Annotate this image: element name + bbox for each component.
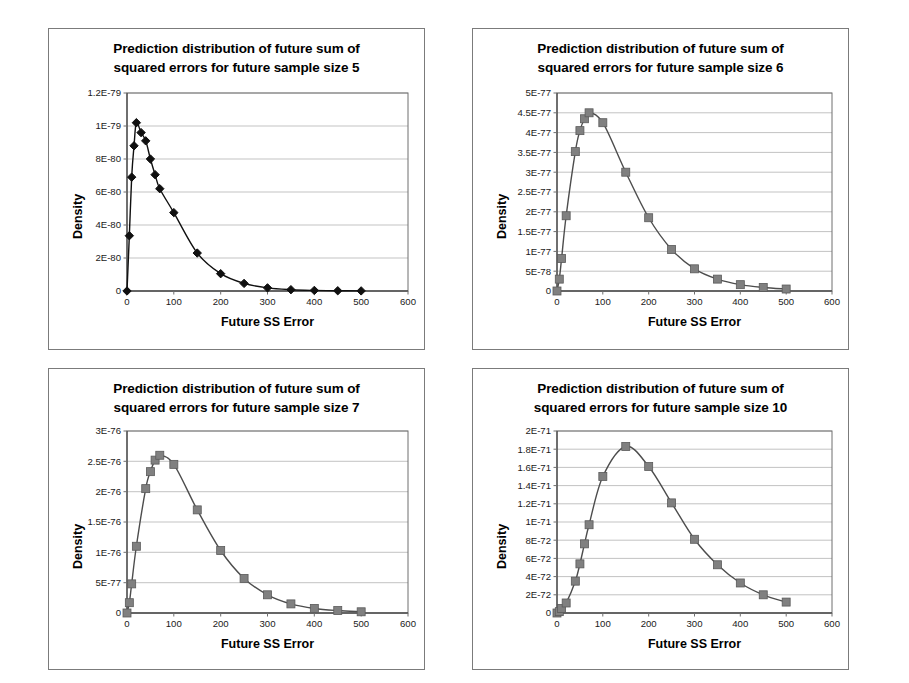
figure-page: Prediction distribution of future sum of… [0, 0, 909, 683]
x-tick-label: 600 [824, 296, 840, 307]
data-point-marker [217, 547, 225, 555]
y-tick-label: 1.5E-77 [517, 226, 551, 237]
y-tick-label: 2E-71 [525, 425, 551, 436]
x-tick-label: 600 [400, 296, 416, 307]
data-point-marker [622, 442, 630, 450]
data-point-marker [128, 580, 136, 588]
data-point-marker [599, 119, 607, 127]
x-tick-label: 600 [824, 618, 840, 629]
y-tick-label: 0 [546, 607, 551, 618]
data-point-marker [782, 598, 790, 606]
y-axis-title: Density [71, 524, 85, 569]
data-point-marker [357, 608, 365, 616]
chart-panel-size-10: Prediction distribution of future sum of… [472, 368, 849, 670]
y-tick-label: 1.8E-71 [517, 444, 551, 455]
data-point-marker [622, 168, 630, 176]
y-tick-label: 0 [116, 285, 121, 296]
data-point-marker [558, 255, 566, 263]
y-tick-label: 1.5E-76 [87, 516, 121, 527]
chart-panel-size-5: Prediction distribution of future sum of… [48, 28, 425, 350]
data-point-marker [585, 521, 593, 529]
data-point-marker [585, 109, 593, 117]
data-point-marker [691, 535, 699, 543]
plot-area-size-5: 02E-804E-806E-808E-801E-791.2E-790100200… [49, 29, 424, 349]
data-point-marker [240, 279, 248, 287]
data-point-marker [599, 473, 607, 481]
series-line-size5 [127, 122, 361, 291]
y-tick-label: 1E-77 [525, 246, 551, 257]
data-point-marker [146, 468, 154, 476]
y-tick-label: 5E-77 [525, 87, 551, 98]
data-point-marker [713, 561, 721, 569]
data-point-marker [142, 137, 150, 145]
plot-area-size-10: 02E-724E-726E-728E-721E-711.2E-711.4E-71… [473, 369, 848, 669]
y-tick-label: 2E-76 [95, 486, 121, 497]
y-tick-label: 3E-76 [95, 425, 121, 436]
data-point-marker [132, 542, 140, 550]
y-axis-title: Density [71, 194, 85, 239]
data-point-marker [668, 499, 676, 507]
x-tick-label: 0 [124, 618, 129, 629]
chart-panel-size-6: Prediction distribution of future sum of… [472, 28, 849, 350]
data-point-marker [240, 574, 248, 582]
data-point-marker [645, 462, 653, 470]
x-tick-label: 100 [166, 296, 182, 307]
x-tick-label: 300 [686, 618, 702, 629]
chart-panel-size-7: Prediction distribution of future sum of… [48, 368, 425, 670]
y-tick-label: 5E-77 [95, 577, 121, 588]
data-point-marker [736, 579, 744, 587]
data-point-marker [123, 609, 131, 617]
y-tick-label: 3.5E-77 [517, 147, 551, 158]
y-tick-label: 4E-72 [525, 571, 551, 582]
y-axis-title: Density [495, 524, 509, 569]
data-point-marker [123, 287, 131, 295]
plot-area-size-6: 05E-781E-771.5E-772E-772.5E-773E-773.5E-… [473, 29, 848, 349]
chart-canvas-size5: 02E-804E-806E-808E-801E-791.2E-790100200… [49, 29, 424, 349]
x-tick-label: 600 [400, 618, 416, 629]
data-point-marker [334, 607, 342, 615]
x-tick-label: 100 [166, 618, 182, 629]
data-point-marker [137, 128, 145, 136]
y-tick-label: 2E-80 [95, 252, 121, 263]
data-point-marker [581, 540, 589, 548]
x-tick-label: 500 [353, 296, 369, 307]
y-tick-label: 1E-71 [525, 516, 551, 527]
data-point-marker [216, 269, 224, 277]
data-point-marker [736, 281, 744, 289]
y-tick-label: 0 [546, 285, 551, 296]
x-tick-label: 200 [641, 618, 657, 629]
x-tick-label: 400 [306, 296, 322, 307]
series-line-size6 [557, 113, 786, 291]
y-tick-label: 1.6E-71 [517, 462, 551, 473]
data-point-marker [357, 287, 365, 295]
x-tick-label: 400 [732, 618, 748, 629]
data-point-marker [264, 591, 272, 599]
data-point-marker [156, 451, 164, 459]
y-tick-label: 3E-77 [525, 167, 551, 178]
data-point-marker [576, 560, 584, 568]
x-axis-title: Future SS Error [127, 315, 408, 329]
y-tick-label: 2.5E-76 [87, 456, 121, 467]
y-tick-label: 1E-76 [95, 547, 121, 558]
data-point-marker [759, 283, 767, 291]
y-tick-label: 1.4E-71 [517, 480, 551, 491]
x-axis-title: Future SS Error [127, 637, 408, 651]
y-tick-label: 2.5E-77 [517, 186, 551, 197]
data-point-marker [125, 599, 133, 607]
y-tick-label: 8E-72 [525, 535, 551, 546]
data-point-marker [170, 460, 178, 468]
data-point-marker [713, 275, 721, 283]
x-tick-label: 100 [595, 296, 611, 307]
x-axis-title: Future SS Error [557, 315, 832, 329]
data-point-marker [571, 577, 579, 585]
x-tick-label: 300 [686, 296, 702, 307]
x-tick-label: 100 [595, 618, 611, 629]
data-point-marker [170, 208, 178, 216]
x-tick-label: 0 [554, 296, 559, 307]
data-point-marker [156, 185, 164, 193]
y-tick-label: 4E-77 [525, 127, 551, 138]
data-point-marker [130, 142, 138, 150]
x-tick-label: 500 [353, 618, 369, 629]
y-tick-label: 0 [116, 607, 121, 618]
x-tick-label: 500 [778, 296, 794, 307]
